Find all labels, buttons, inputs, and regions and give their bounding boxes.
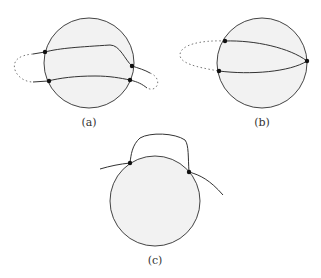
figure: (a) (b) (c) <box>0 0 321 278</box>
panel-b: (b) <box>180 18 309 129</box>
vertex <box>187 170 191 174</box>
disk-c <box>110 156 200 246</box>
dotted-loop-left-a <box>14 54 33 82</box>
disk-a <box>44 18 134 108</box>
vertex <box>305 59 309 63</box>
panel-label-a: (a) <box>81 116 96 129</box>
vertex <box>128 161 132 165</box>
panel-label-b: (b) <box>254 116 270 129</box>
vertex <box>217 69 221 73</box>
vertex <box>223 39 227 43</box>
vertex <box>47 79 51 83</box>
vertex <box>43 50 47 54</box>
disk-b <box>217 18 307 108</box>
panel-a: (a) <box>14 18 157 129</box>
panel-label-c: (c) <box>148 254 163 267</box>
dotted-loop-right-a <box>147 73 158 89</box>
vertex <box>128 78 132 82</box>
panel-c: (c) <box>100 134 223 267</box>
vertex <box>130 64 134 68</box>
